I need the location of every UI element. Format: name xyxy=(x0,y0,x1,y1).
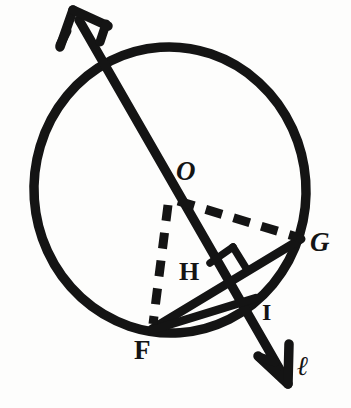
point-label-i: I xyxy=(262,300,271,324)
geometry-figure: O G H I F ℓ xyxy=(0,0,351,408)
radius-of-dashed xyxy=(153,205,168,324)
circle-o xyxy=(24,38,315,342)
point-label-f: F xyxy=(134,337,151,364)
line-label-l: ℓ xyxy=(297,353,309,380)
point-label-h: H xyxy=(179,259,199,285)
geometry-canvas xyxy=(0,0,351,408)
point-label-g: G xyxy=(310,229,330,256)
point-label-o: O xyxy=(176,158,196,185)
